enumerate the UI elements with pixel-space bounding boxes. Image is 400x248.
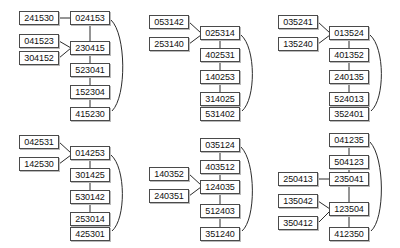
chain-node-g5-0[interactable]: 035124	[200, 138, 240, 152]
chain-node-g5-1[interactable]: 403512	[200, 160, 240, 174]
chain-node-g1-3[interactable]: 152304	[70, 85, 110, 99]
input-node-g1-0[interactable]: 241530	[19, 11, 59, 25]
chain-node-g6-4[interactable]: 412350	[329, 227, 369, 241]
chain-node-g5-3[interactable]: 512403	[200, 204, 240, 218]
chain-node-g4-1[interactable]: 301425	[70, 168, 110, 182]
chain-node-g1-2[interactable]: 523041	[70, 63, 110, 77]
input-node-g4-1[interactable]: 142530	[19, 157, 59, 171]
chain-node-g1-4[interactable]: 415230	[70, 107, 110, 121]
chain-node-g1-1[interactable]: 230415	[70, 41, 110, 55]
chain-node-g4-2[interactable]: 530142	[70, 190, 110, 204]
chain-node-g4-3[interactable]: 253014	[70, 212, 110, 226]
chain-node-g5-2[interactable]: 124035	[200, 180, 240, 194]
chain-node-g1-0[interactable]: 024153	[70, 11, 110, 25]
input-node-g6-0[interactable]: 250413	[278, 172, 318, 186]
chain-node-g3-4[interactable]: 352401	[329, 107, 369, 121]
chain-node-g2-4[interactable]: 531402	[200, 107, 240, 121]
input-node-g6-1[interactable]: 135042	[278, 194, 318, 208]
edge-g1-feedback	[111, 20, 123, 111]
input-node-g3-0[interactable]: 035241	[278, 15, 318, 29]
chain-node-g2-2[interactable]: 140253	[200, 70, 240, 84]
edge-g4-feedback	[111, 155, 122, 231]
chain-node-g3-3[interactable]: 524013	[329, 92, 369, 106]
chain-node-g6-3[interactable]: 123504	[329, 202, 369, 216]
diagram-canvas: 241530 041523 304152 024153 230415 52304…	[0, 0, 400, 248]
input-node-g6-2[interactable]: 350412	[278, 216, 318, 230]
input-node-g2-0[interactable]: 053142	[149, 15, 189, 29]
chain-node-g4-0[interactable]: 014253	[70, 146, 110, 160]
edge-g3-feedback	[370, 35, 381, 111]
input-node-g1-1[interactable]: 041523	[19, 34, 59, 48]
input-node-g2-1[interactable]: 253140	[149, 37, 189, 51]
chain-node-g3-2[interactable]: 240135	[329, 70, 369, 84]
chain-node-g6-2[interactable]: 235041	[329, 172, 369, 186]
chain-node-g4-4[interactable]: 425301	[70, 227, 110, 241]
input-node-g1-2[interactable]: 304152	[19, 51, 59, 65]
chain-node-g3-1[interactable]: 401352	[329, 48, 369, 62]
chain-node-g6-0[interactable]: 041235	[329, 133, 369, 147]
input-node-g5-1[interactable]: 240351	[149, 189, 189, 203]
chain-node-g2-3[interactable]: 314025	[200, 92, 240, 106]
chain-node-g5-4[interactable]: 351240	[200, 227, 240, 241]
edge-g5-feedback	[241, 147, 252, 231]
edge-g6-feedback	[370, 142, 381, 231]
edge-g2-feedback	[241, 35, 252, 111]
input-node-g3-1[interactable]: 135240	[278, 37, 318, 51]
chain-node-g2-1[interactable]: 402531	[200, 48, 240, 62]
chain-node-g6-1[interactable]: 504123	[329, 155, 369, 169]
chain-node-g3-0[interactable]: 013524	[329, 26, 369, 40]
input-node-g4-0[interactable]: 042531	[19, 135, 59, 149]
chain-node-g2-0[interactable]: 025314	[200, 26, 240, 40]
input-node-g5-0[interactable]: 140352	[149, 167, 189, 181]
